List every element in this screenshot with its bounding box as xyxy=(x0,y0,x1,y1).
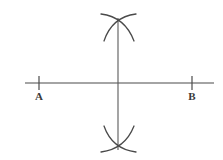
geometry-figure-canvas: A B xyxy=(0,0,223,160)
point-label-b: B xyxy=(188,90,196,102)
upper-arc-left-icon xyxy=(104,14,136,41)
lower-arc-left-icon xyxy=(104,126,136,152)
point-label-a: A xyxy=(35,90,43,102)
geometry-diagram: A B xyxy=(0,0,223,160)
